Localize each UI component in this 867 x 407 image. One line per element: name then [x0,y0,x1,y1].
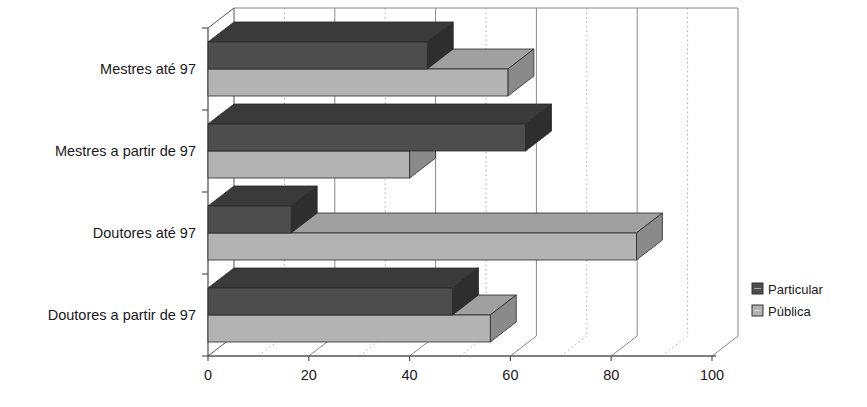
category-label-3: Doutores a partir de 97 [48,307,196,323]
x-tick-label-100: 100 [700,367,724,383]
bar-particular-1 [208,104,552,151]
x-tick-label-80: 80 [603,367,619,383]
x-tick-label-0: 0 [204,367,212,383]
x-tick-label-40: 40 [402,367,418,383]
bar-chart: 020406080100 Mestres até 97Mestres a par… [0,0,867,407]
legend-label-particular: Particular [768,282,824,297]
y-axis-category-labels: Mestres até 97Mestres a partir de 97Dout… [48,61,196,323]
floor-gridline-90 [662,336,688,356]
bar-particular-3 [208,268,478,315]
floor-gridline-60 [510,336,536,356]
legend-label-pública: Pública [768,304,811,319]
floor-gridline-80 [611,336,637,356]
bar-particular-0 [208,22,453,69]
floor-gridline-70 [561,336,587,356]
category-label-0: Mestres até 97 [100,61,196,77]
x-tick-label-20: 20 [301,367,317,383]
floor-gridline-100 [712,336,738,356]
category-label-1: Mestres a partir de 97 [55,143,196,159]
chart-container: 020406080100 Mestres até 97Mestres a par… [0,0,867,407]
chart-legend: ParticularPública [752,282,824,319]
x-axis-tick-labels: 020406080100 [204,367,724,383]
category-label-2: Doutores até 97 [93,225,196,241]
bar-particular-2 [208,186,317,233]
x-tick-label-60: 60 [502,367,518,383]
